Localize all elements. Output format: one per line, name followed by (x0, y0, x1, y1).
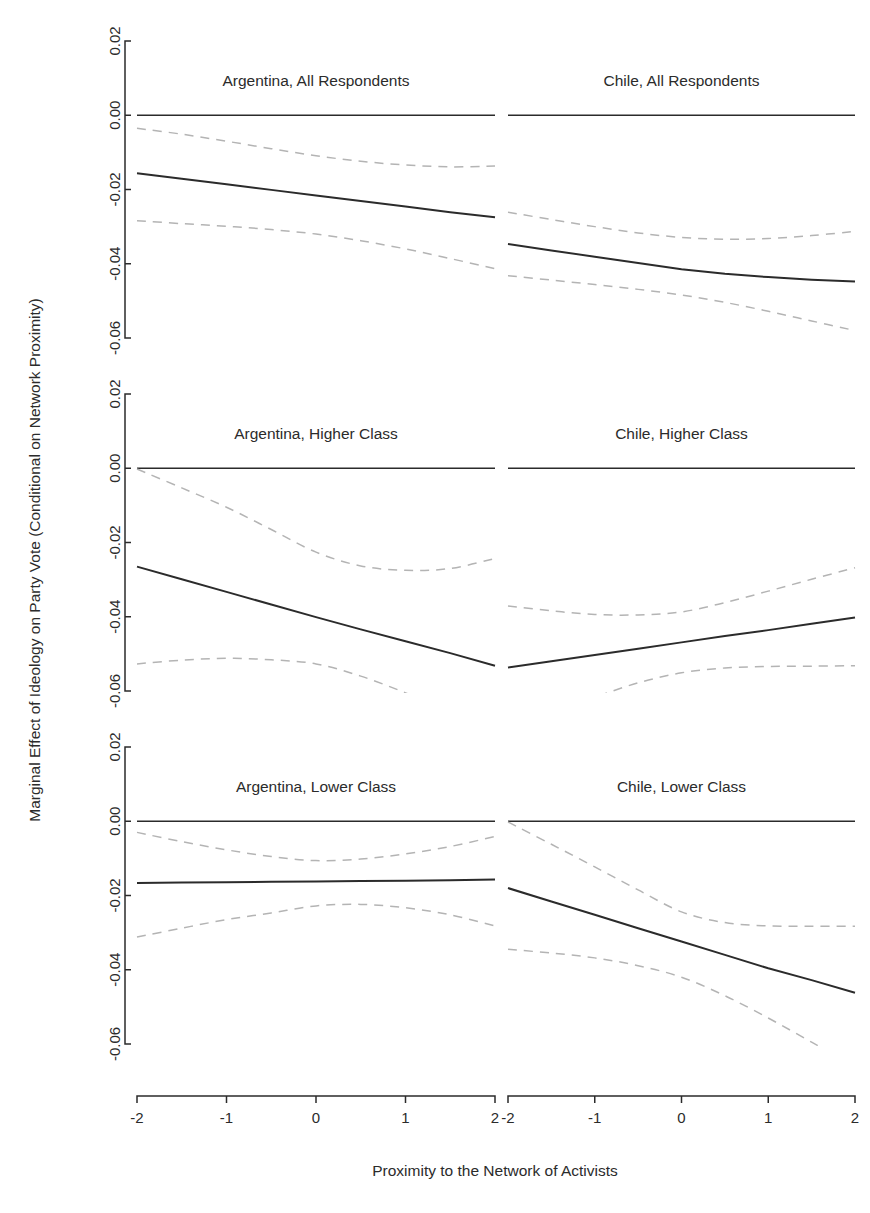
y-axis-tick-label: -0.04 (106, 247, 123, 281)
panel-title: Argentina, All Respondents (223, 72, 410, 89)
y-axis-tick-label: -0.04 (106, 600, 123, 634)
panel-title: Argentina, Lower Class (236, 778, 396, 795)
y-axis-tick-label: 0.00 (106, 454, 123, 483)
x-axis-title: Proximity to the Network of Activists (372, 1162, 618, 1179)
x-axis-tick-label: -1 (220, 1109, 233, 1126)
panel-title: Chile, Higher Class (615, 425, 748, 442)
x-axis-tick-label: -2 (130, 1109, 143, 1126)
y-axis-tick-label: -0.06 (106, 321, 123, 355)
marginal-effects-figure: Argentina, All RespondentsChile, All Res… (0, 0, 870, 1213)
figure-root: Argentina, All RespondentsChile, All Res… (0, 0, 870, 1213)
y-axis-tick-label: -0.02 (106, 172, 123, 206)
x-axis-tick-label: 0 (312, 1109, 320, 1126)
y-axis-tick-label: 0.00 (106, 101, 123, 130)
figure-background (0, 0, 870, 1213)
y-axis-tick-label: -0.06 (106, 674, 123, 708)
x-axis-tick-label: 2 (491, 1109, 499, 1126)
x-axis-tick-label: 0 (677, 1109, 685, 1126)
panel-title: Chile, All Respondents (604, 72, 760, 89)
x-axis-tick-label: 1 (764, 1109, 772, 1126)
panel-title: Chile, Lower Class (617, 778, 746, 795)
x-axis-tick-label: -1 (588, 1109, 601, 1126)
y-axis-tick-label: 0.00 (106, 807, 123, 836)
y-axis-tick-label: 0.02 (106, 26, 123, 55)
y-axis-tick-label: -0.02 (106, 878, 123, 912)
y-axis-tick-label: -0.04 (106, 953, 123, 987)
x-axis-tick-label: 2 (851, 1109, 859, 1126)
x-axis-tick-label: -2 (501, 1109, 514, 1126)
panel-title: Argentina, Higher Class (234, 425, 398, 442)
y-axis-tick-label: 0.02 (106, 379, 123, 408)
y-axis-title: Marginal Effect of Ideology on Party Vot… (26, 298, 43, 822)
x-axis-tick-label: 1 (401, 1109, 409, 1126)
y-axis-tick-label: -0.02 (106, 525, 123, 559)
y-axis-tick-label: 0.02 (106, 732, 123, 761)
y-axis-tick-label: -0.06 (106, 1027, 123, 1061)
